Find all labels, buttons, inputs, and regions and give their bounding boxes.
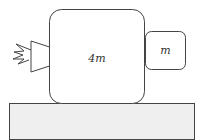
thruster-nozzle-icon bbox=[31, 41, 50, 72]
thruster-flame-icon bbox=[13, 44, 31, 64]
physics-diagram: 4m m bbox=[0, 0, 209, 140]
small-block-label: m bbox=[160, 44, 170, 57]
large-block-label: 4m bbox=[87, 52, 105, 65]
surface-platform bbox=[10, 104, 195, 140]
